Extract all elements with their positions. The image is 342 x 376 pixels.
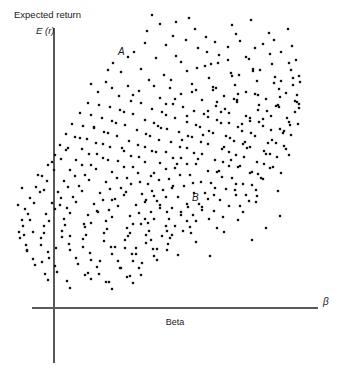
scatter-point	[138, 90, 140, 92]
scatter-point	[218, 54, 220, 56]
scatter-point	[229, 137, 231, 139]
scatter-point	[180, 214, 182, 216]
scatter-point	[235, 33, 237, 35]
scatter-point	[111, 120, 113, 122]
scatter-point	[172, 103, 174, 105]
scatter-point	[86, 138, 88, 140]
scatter-point	[181, 139, 183, 141]
scatter-point	[32, 231, 34, 233]
scatter-point	[203, 113, 205, 115]
scatter-point	[168, 178, 170, 180]
scatter-point	[197, 47, 199, 49]
scatter-point	[262, 125, 264, 127]
scatter-point	[195, 124, 197, 126]
scatter-point	[120, 71, 122, 73]
scatter-points-group	[17, 14, 301, 290]
scatter-point	[21, 219, 23, 221]
scatter-point	[165, 225, 167, 227]
scatter-point	[265, 227, 267, 229]
scatter-point	[212, 86, 214, 88]
scatter-point	[175, 55, 177, 57]
scatter-point	[84, 274, 86, 276]
scatter-point	[75, 201, 77, 203]
scatter-point	[27, 213, 29, 215]
scatter-point	[59, 144, 61, 146]
scatter-point	[141, 262, 143, 264]
scatter-point	[230, 159, 232, 161]
scatter-point	[102, 199, 104, 201]
scatter-point	[237, 126, 239, 128]
scatter-point	[105, 81, 107, 83]
scatter-point	[123, 194, 125, 196]
scatter-point	[283, 145, 285, 147]
scatter-point	[279, 215, 281, 217]
scatter-point	[69, 235, 71, 237]
scatter-point	[135, 204, 137, 206]
scatter-point	[257, 109, 259, 111]
scatter-point	[170, 141, 172, 143]
scatter-point	[147, 222, 149, 224]
scatter-point	[132, 223, 134, 225]
scatter-point	[39, 191, 41, 193]
scatter-point	[235, 154, 237, 156]
scatter-point	[126, 276, 128, 278]
scatter-point	[186, 147, 188, 149]
scatter-point	[116, 135, 118, 137]
scatter-point	[225, 135, 227, 137]
scatter-point	[251, 239, 253, 241]
scatter-point	[243, 156, 245, 158]
scatter-point	[191, 83, 193, 85]
scatter-point	[120, 187, 122, 189]
scatter-point	[158, 179, 160, 181]
scatter-point	[159, 162, 161, 164]
scatter-point	[156, 248, 158, 250]
scatter-point	[140, 274, 142, 276]
scatter-point	[201, 206, 203, 208]
scatter-point	[111, 171, 113, 173]
scatter-point	[169, 87, 171, 89]
scatter-point	[216, 227, 218, 229]
scatter-point	[241, 130, 243, 132]
scatter-point	[197, 158, 199, 160]
scatter-point	[189, 174, 191, 176]
scatter-point	[106, 228, 108, 230]
scatter-point	[245, 56, 247, 58]
scatter-point	[177, 254, 179, 256]
scatter-point	[191, 91, 193, 93]
scatter-point	[121, 147, 123, 149]
scatter-point	[69, 249, 71, 251]
scatter-point	[117, 205, 119, 207]
scatter-point	[47, 279, 49, 281]
scatter-point	[256, 161, 258, 163]
scatter-point	[111, 288, 113, 290]
scatter-point	[231, 24, 233, 26]
scatter-point	[144, 146, 146, 148]
scatter-point	[209, 255, 211, 257]
scatter-point	[132, 282, 134, 284]
scatter-point	[55, 247, 57, 249]
scatter-point	[199, 126, 201, 128]
scatter-point	[179, 146, 181, 148]
scatter-point	[258, 121, 260, 123]
scatter-point	[145, 242, 147, 244]
scatter-point	[221, 148, 223, 150]
scatter-point	[242, 143, 244, 145]
scatter-point	[250, 19, 252, 21]
scatter-point	[89, 252, 91, 254]
scatter-point	[119, 109, 121, 111]
scatter-point	[288, 62, 290, 64]
scatter-point	[254, 47, 256, 49]
scatter-point	[172, 35, 174, 37]
scatter-point	[156, 200, 158, 202]
scatter-point	[172, 185, 174, 187]
scatter-point	[48, 257, 50, 259]
scatter-point	[148, 230, 150, 232]
scatter-point	[215, 87, 217, 89]
scatter-point	[262, 178, 264, 180]
scatter-point	[249, 120, 251, 122]
scatter-point	[166, 230, 168, 232]
scatter-point	[102, 143, 104, 145]
scatter-point	[248, 58, 250, 60]
scatter-point	[130, 100, 132, 102]
scatter-point	[61, 236, 63, 238]
